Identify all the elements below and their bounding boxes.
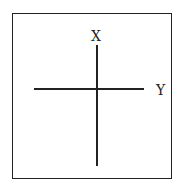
horizontal-axis-line (34, 88, 144, 90)
vertical-axis-line (96, 45, 98, 166)
y-axis-label: Y (156, 83, 165, 97)
x-axis-label: X (91, 29, 101, 43)
